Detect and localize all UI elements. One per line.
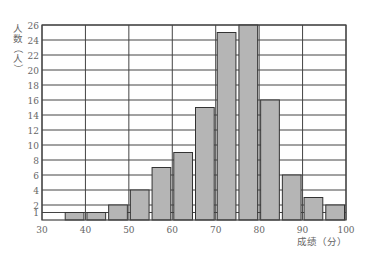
y-tick-label: 22 bbox=[28, 51, 39, 61]
x-tick-label: 90 bbox=[297, 225, 309, 235]
histogram-bar bbox=[326, 205, 345, 220]
x-tick-label: 70 bbox=[210, 225, 222, 235]
y-label-char: 人 bbox=[13, 53, 23, 64]
histogram-bar bbox=[239, 25, 258, 220]
y-tick-label: 10 bbox=[28, 141, 40, 151]
histogram-bar bbox=[174, 153, 193, 221]
x-axis-label: 成绩（分） bbox=[297, 236, 347, 247]
histogram-bar bbox=[196, 108, 215, 221]
y-tick-label: 4 bbox=[33, 186, 39, 196]
y-label-char: ） bbox=[13, 64, 24, 74]
y-axis-label: 人数（人） bbox=[13, 23, 24, 74]
y-tick-label: 18 bbox=[28, 81, 40, 91]
histogram-bar bbox=[152, 168, 171, 221]
histogram-bar bbox=[130, 190, 149, 220]
x-tick-label: 30 bbox=[36, 225, 48, 235]
x-tick-label: 60 bbox=[167, 225, 179, 235]
y-tick-label: 14 bbox=[28, 111, 40, 121]
histogram-bar bbox=[217, 33, 236, 221]
x-tick-label: 80 bbox=[253, 225, 265, 235]
y-tick-label: 8 bbox=[33, 156, 39, 166]
x-tick-label: 40 bbox=[80, 225, 92, 235]
histogram-bar bbox=[261, 100, 280, 220]
x-tick-label: 50 bbox=[123, 225, 135, 235]
histogram-chart: 12468101214161820222426 3040506070809010… bbox=[0, 0, 368, 260]
y-label-char: 数 bbox=[13, 33, 23, 44]
y-tick-label: 24 bbox=[28, 36, 40, 46]
histogram-bar bbox=[87, 213, 106, 221]
y-tick-label: 16 bbox=[28, 96, 40, 106]
histogram-bar bbox=[304, 198, 323, 221]
histogram-bar bbox=[109, 205, 128, 220]
histogram-bar bbox=[65, 213, 84, 221]
y-tick-label: 12 bbox=[28, 126, 39, 136]
x-axis-ticks: 30405060708090100 bbox=[36, 225, 355, 235]
y-tick-label: 20 bbox=[28, 66, 40, 76]
y-axis-ticks: 12468101214161820222426 bbox=[28, 21, 40, 219]
y-tick-label: 26 bbox=[28, 21, 40, 31]
x-tick-label: 100 bbox=[337, 225, 354, 235]
histogram-bar bbox=[282, 175, 301, 220]
y-tick-label: 6 bbox=[33, 171, 39, 181]
y-tick-label: 2 bbox=[33, 201, 39, 211]
